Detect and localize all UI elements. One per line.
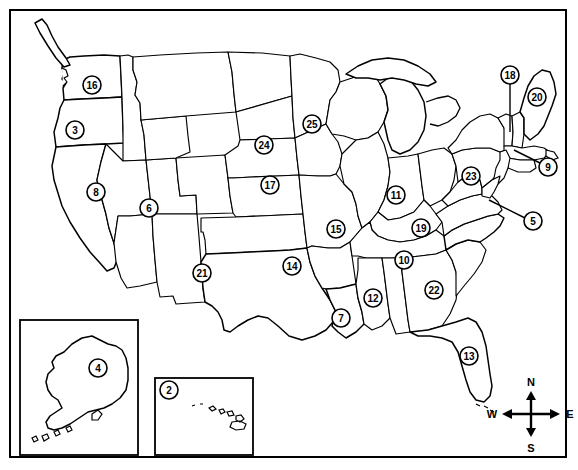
marker-label-6: 6 [146,203,152,214]
state-oklahoma [201,214,307,254]
compass-label-east: E [566,408,573,420]
state-marker-kentucky[interactable]: 19 [412,219,430,237]
map-canvas: 2345678910111213141516171819202122232425… [0,0,578,470]
state-marker-south-dakota[interactable]: 24 [255,136,273,154]
marker-label-8: 8 [93,187,99,198]
state-oregon [54,97,124,147]
state-massachusetts [504,146,550,160]
state-connecticut-rhode-island [508,158,536,172]
state-marker-pennsylvania[interactable]: 23 [462,167,480,185]
marker-label-23: 23 [465,171,477,182]
marker-label-4: 4 [95,363,101,374]
state-marker-maine[interactable]: 20 [528,88,546,106]
marker-label-3: 3 [72,125,78,136]
state-marker-minnesota[interactable]: 25 [303,115,321,133]
state-marker-nebraska[interactable]: 17 [261,176,279,194]
state-marker-rhode-island[interactable]: 9 [539,158,557,176]
state-marker-nevada[interactable]: 8 [87,183,105,201]
state-new-mexico [152,214,205,304]
marker-label-16: 16 [86,80,98,91]
marker-label-22: 22 [428,285,440,296]
marker-label-18: 18 [504,70,516,81]
compass-label-north: N [527,376,535,388]
marker-label-9: 9 [545,162,551,173]
state-marker-new-mexico[interactable]: 21 [193,264,211,282]
compass-east-arrow [550,409,560,419]
state-marker-new-hampshire[interactable]: 18 [501,66,519,84]
marker-label-2: 2 [166,385,172,396]
us-map-svg: 2345678910111213141516171819202122232425… [0,0,578,470]
compass-label-west: W [487,408,498,420]
state-new-hampshire [512,112,524,148]
marker-label-13: 13 [463,351,475,362]
compass-label-south: S [527,442,534,454]
state-marker-utah[interactable]: 6 [140,199,158,217]
marker-label-15: 15 [330,224,342,235]
state-marker-alaska[interactable]: 4 [89,359,107,377]
state-marker-georgia[interactable]: 22 [425,281,443,299]
state-marker-delaware[interactable]: 5 [524,212,542,230]
great-lakes-detail [426,96,460,126]
marker-label-7: 7 [338,313,344,324]
state-marker-florida[interactable]: 13 [460,347,478,365]
compass-west-arrow [502,409,512,419]
state-marker-alabama[interactable]: 10 [395,251,413,269]
marker-label-24: 24 [258,140,270,151]
compass-south-arrow [526,428,536,437]
marker-label-17: 17 [264,180,276,191]
compass-rose: NSEW [487,376,574,454]
marker-label-19: 19 [415,223,427,234]
marker-label-25: 25 [306,119,318,130]
marker-label-21: 21 [196,268,208,279]
state-florida [410,318,492,402]
state-marker-louisiana[interactable]: 7 [332,309,350,327]
state-michigan-lower [380,76,426,154]
marker-label-11: 11 [391,190,402,201]
compass-north-arrow [526,391,536,400]
marker-label-12: 12 [367,293,379,304]
state-arizona [114,214,157,288]
marker-label-10: 10 [398,255,410,266]
marker-label-14: 14 [286,261,298,272]
state-wyoming [141,116,190,160]
state-marker-oregon[interactable]: 3 [66,121,84,139]
marker-label-20: 20 [531,92,543,103]
inset-boxes [20,320,253,455]
state-marker-oklahoma[interactable]: 14 [283,257,301,275]
northwest-coast-sliver [35,19,70,67]
state-marker-indiana[interactable]: 11 [387,186,405,204]
state-marker-mississippi[interactable]: 12 [364,289,382,307]
state-montana [133,52,236,120]
state-marker-missouri[interactable]: 15 [327,220,345,238]
state-marker-washington[interactable]: 16 [83,76,101,94]
state-marker-hawaii[interactable]: 2 [160,381,178,399]
marker-label-5: 5 [530,216,536,227]
